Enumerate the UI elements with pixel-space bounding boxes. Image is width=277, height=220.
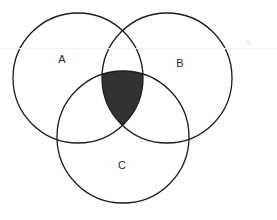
venn-diagram-svg: A B C xyxy=(0,0,277,220)
set-label-a: A xyxy=(58,53,66,65)
set-label-b: B xyxy=(176,57,184,69)
venn-diagram-canvas: A B C xyxy=(0,0,277,220)
background-plate xyxy=(0,0,277,220)
set-label-c: C xyxy=(118,159,126,171)
